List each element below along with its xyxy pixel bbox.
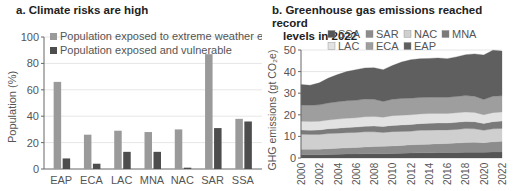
bar-sar-exposed xyxy=(205,54,213,169)
x-tick-label: 2020 xyxy=(479,162,490,185)
x-tick-label: NAC xyxy=(171,174,194,186)
bar-ssa-vulnerable xyxy=(244,121,252,169)
y-tick-label: 40 xyxy=(27,110,39,122)
x-tick-label: 2018 xyxy=(460,162,471,185)
legend-label: SAR xyxy=(376,28,399,40)
x-tick-label: SAR xyxy=(201,174,224,186)
bar-eap-exposed xyxy=(54,82,62,169)
y-tick-label: 20 xyxy=(284,109,296,121)
x-tick-label: SSA xyxy=(232,174,255,186)
bar-lac-vulnerable xyxy=(123,152,131,169)
bar-lac-exposed xyxy=(114,131,122,169)
legend-label: SSA xyxy=(338,28,361,40)
bar-eca-exposed xyxy=(84,135,92,169)
legend-swatch-eca xyxy=(366,43,373,50)
legend-swatch-eap xyxy=(404,43,411,50)
bar-mna-exposed xyxy=(145,132,153,169)
x-tick-label: 2010 xyxy=(387,162,398,185)
x-tick-label: MNA xyxy=(140,174,165,186)
x-tick-label: 2014 xyxy=(424,162,435,185)
legend-label: LAC xyxy=(338,40,359,52)
legend-label: Population exposed to extreme weather ev… xyxy=(60,30,262,42)
legend-label: Population exposed and vulnerable xyxy=(60,44,232,56)
bar-sar-vulnerable xyxy=(214,128,222,169)
legend-swatch-lac xyxy=(328,43,335,50)
legend-label: NAC xyxy=(414,28,437,40)
y-tick-label: 100 xyxy=(21,31,39,43)
y-tick-label: 40 xyxy=(284,66,296,78)
y-tick-label: 10 xyxy=(284,130,296,142)
y-axis-label: Population (%) xyxy=(6,71,18,143)
x-tick-label: 2008 xyxy=(369,162,380,185)
x-tick-label: EAP xyxy=(50,174,72,186)
y-tick-label: 80 xyxy=(27,57,39,69)
bar-ssa-exposed xyxy=(235,119,243,169)
x-tick-label: ECA xyxy=(80,174,103,186)
y-tick-label: 50 xyxy=(284,44,296,56)
legend-label: ECA xyxy=(376,40,399,52)
panel-a: a. Climate risks are high 020406080100Po… xyxy=(0,0,262,191)
y-tick-label: 20 xyxy=(27,137,39,149)
y-tick-label: 0 xyxy=(33,163,39,175)
x-tick-label: LAC xyxy=(111,174,132,186)
x-tick-label: 2006 xyxy=(351,162,362,185)
legend-swatch-ssa xyxy=(328,31,335,38)
bar-nac-vulnerable xyxy=(184,168,192,169)
legend-swatch xyxy=(50,33,57,40)
x-tick-label: 2000 xyxy=(296,162,307,185)
x-tick-label: 2012 xyxy=(406,162,417,185)
legend-swatch-nac xyxy=(404,31,411,38)
x-tick-label: 2002 xyxy=(314,162,325,185)
x-tick-label: 2022 xyxy=(497,162,508,185)
bar-eap-vulnerable xyxy=(63,158,70,169)
legend-swatch-mna xyxy=(442,31,449,38)
y-tick-label: 0 xyxy=(290,152,296,164)
bar-eca-vulnerable xyxy=(93,164,101,169)
x-tick-label: 2004 xyxy=(333,162,344,185)
area-chart-ghg-emissions: 01020304050GHG emissions (gt CO₂e)200020… xyxy=(262,0,516,191)
y-tick-label: 30 xyxy=(284,87,296,99)
x-tick-label: 2016 xyxy=(442,162,453,185)
y-tick-label: 60 xyxy=(27,84,39,96)
panel-b: b. Greenhouse gas emissions reached reco… xyxy=(262,0,516,191)
bar-chart-climate-risks: 020406080100Population (%)EAPECALACMNANA… xyxy=(0,0,262,191)
legend-swatch xyxy=(50,47,57,54)
bar-mna-vulnerable xyxy=(154,152,162,169)
legend-label: EAP xyxy=(414,40,436,52)
bar-nac-exposed xyxy=(175,129,183,169)
legend-label: MNA xyxy=(452,28,477,40)
y-axis-label: GHG emissions (gt CO₂e) xyxy=(266,50,278,171)
legend-swatch-sar xyxy=(366,31,373,38)
